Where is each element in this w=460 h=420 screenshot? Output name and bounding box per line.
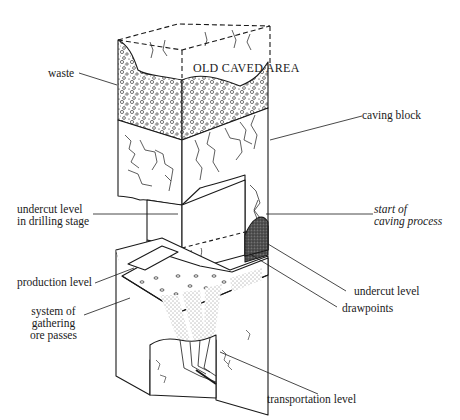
- label-waste: waste: [48, 67, 74, 79]
- label-undercut-drilling: undercut level in drilling stage: [17, 203, 89, 227]
- label-undercut-level: undercut level: [354, 285, 419, 297]
- label-old-caved-area: OLD CAVED AREA: [193, 62, 300, 74]
- label-caving-block: caving block: [362, 109, 421, 121]
- label-production-level: production level: [17, 276, 92, 288]
- transport-tunnel: [150, 335, 216, 398]
- label-ore-passes: system of gathering ore passes: [30, 305, 77, 341]
- label-start-of-caving: start of caving process: [374, 203, 442, 227]
- label-drawpoints: drawpoints: [342, 302, 393, 314]
- label-transportation-level: transportation level: [267, 393, 356, 405]
